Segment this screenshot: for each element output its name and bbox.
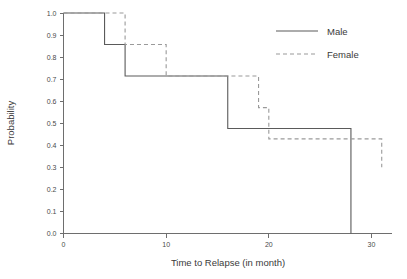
y-tick-label: 0.7: [47, 76, 57, 83]
y-tick-label: 0.2: [47, 186, 57, 193]
legend-label-male: Male: [327, 26, 348, 37]
plot-canvas: 0.00.10.20.30.40.50.60.70.80.91.0 010203…: [0, 0, 407, 279]
y-tick-label: 0.9: [47, 32, 57, 39]
legend: Male Female: [276, 26, 359, 60]
y-axis-ticks: 0.00.10.20.30.40.50.60.70.80.91.0: [47, 10, 64, 238]
x-tick-label: 20: [265, 241, 273, 248]
y-tick-label: 0.5: [47, 120, 57, 127]
series-line-male: [64, 13, 351, 234]
x-tick-label: 0: [62, 241, 66, 248]
x-axis-title: Time to Relapse (in month): [171, 257, 285, 268]
y-tick-label: 0.6: [47, 98, 57, 105]
x-axis-ticks: 0102030: [62, 234, 376, 248]
y-tick-label: 0.0: [47, 230, 57, 237]
y-tick-label: 0.8: [47, 54, 57, 61]
series-layer: [64, 13, 382, 234]
x-tick-label: 10: [162, 241, 170, 248]
y-tick-label: 0.3: [47, 164, 57, 171]
y-tick-label: 0.1: [47, 208, 57, 215]
survival-curve-chart: 0.00.10.20.30.40.50.60.70.80.91.0 010203…: [0, 0, 407, 279]
x-tick-label: 30: [368, 241, 376, 248]
legend-label-female: Female: [327, 49, 359, 60]
y-axis-title: Probability: [5, 101, 16, 146]
y-tick-label: 0.4: [47, 142, 57, 149]
y-tick-label: 1.0: [47, 10, 57, 17]
